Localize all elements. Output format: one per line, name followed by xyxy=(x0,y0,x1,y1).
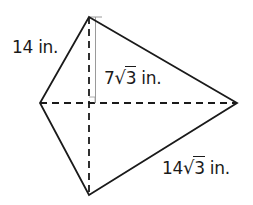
height-unit: in. xyxy=(136,68,161,88)
sqrt-icon: √3 xyxy=(183,159,205,177)
sqrt-icon: √3 xyxy=(115,69,137,87)
side-unit: in. xyxy=(33,37,58,57)
height-label: 7√3 in. xyxy=(104,69,161,87)
height-radicand: 3 xyxy=(125,66,137,88)
side-value: 14 xyxy=(12,37,33,57)
side-unit: in. xyxy=(205,158,230,178)
side-length-label-14: 14 in. xyxy=(12,39,58,56)
side-radicand: 3 xyxy=(193,156,205,178)
side-coefficient: 14 xyxy=(162,158,183,178)
height-coefficient: 7 xyxy=(104,68,115,88)
side-length-label-14-root-3: 14√3 in. xyxy=(162,159,230,177)
kite-diagram: 14 in. 7√3 in. 14√3 in. xyxy=(0,0,253,205)
